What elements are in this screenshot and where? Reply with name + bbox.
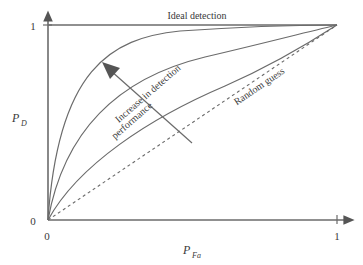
y-axis-label: P D bbox=[11, 111, 27, 128]
x-axis-label: P Fa bbox=[182, 243, 201, 260]
y-axis-label-main: P bbox=[11, 111, 20, 125]
random-guess-label: Random guess bbox=[232, 65, 287, 107]
curves-group bbox=[48, 25, 337, 220]
x-axis-label-subscript: Fa bbox=[191, 251, 201, 260]
roc-diagram: 1 0 0 1 P D P Fa Ideal detection Random … bbox=[0, 0, 363, 265]
x-axis-label-main: P bbox=[182, 243, 191, 257]
roc-curve-figure: 1 0 0 1 P D P Fa Ideal detection Random … bbox=[0, 0, 363, 265]
x-axis-max-tick-label: 1 bbox=[334, 230, 340, 242]
y-axis-min-tick-label: 0 bbox=[30, 215, 36, 227]
y-axis-label-subscript: D bbox=[20, 119, 27, 128]
y-axis-max-tick-label: 1 bbox=[30, 20, 36, 32]
x-axis-min-tick-label: 0 bbox=[44, 230, 50, 242]
ideal-detection-label: Ideal detection bbox=[167, 10, 226, 21]
